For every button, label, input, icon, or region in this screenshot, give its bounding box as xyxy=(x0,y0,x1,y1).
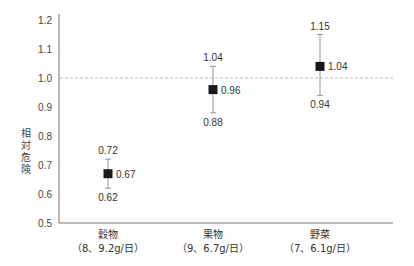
category-sublabel: （8、9.2g/日） xyxy=(72,243,144,254)
point-value-label: 1.04 xyxy=(328,61,348,72)
point-marker xyxy=(104,169,113,178)
y-axis-label: 相対危険 xyxy=(20,128,32,176)
point-marker xyxy=(316,62,325,71)
y-tick-label: 0.8 xyxy=(38,131,52,142)
category-label: 野菜 xyxy=(310,229,330,240)
y-tick-label: 1.0 xyxy=(38,73,52,84)
category-label: 果物 xyxy=(203,228,223,240)
point-value-label: 0.96 xyxy=(221,85,241,96)
y-tick-label: 0.6 xyxy=(38,189,52,200)
upper-ci-label: 0.72 xyxy=(98,145,118,156)
upper-ci-label: 1.15 xyxy=(310,21,330,32)
category-sublabel: （7、6.1g/日） xyxy=(284,243,356,254)
category-label: 穀物 xyxy=(98,228,118,240)
lower-ci-label: 0.62 xyxy=(98,192,118,203)
point-value-label: 0.67 xyxy=(116,169,136,180)
y-tick-label: 0.9 xyxy=(38,102,52,113)
upper-ci-label: 1.04 xyxy=(203,52,223,63)
y-tick-label: 1.2 xyxy=(38,15,52,26)
y-tick-label: 0.5 xyxy=(38,218,52,229)
point-marker xyxy=(209,85,218,94)
y-tick-label: 1.1 xyxy=(38,44,52,55)
lower-ci-label: 0.88 xyxy=(203,117,223,128)
forest-plot: 0.50.60.70.80.91.01.11.2穀物（8、9.2g/日）果物（9… xyxy=(0,0,414,266)
category-sublabel: （9、6.7g/日） xyxy=(177,243,249,254)
lower-ci-label: 0.94 xyxy=(310,99,330,110)
y-tick-label: 0.7 xyxy=(38,160,52,171)
